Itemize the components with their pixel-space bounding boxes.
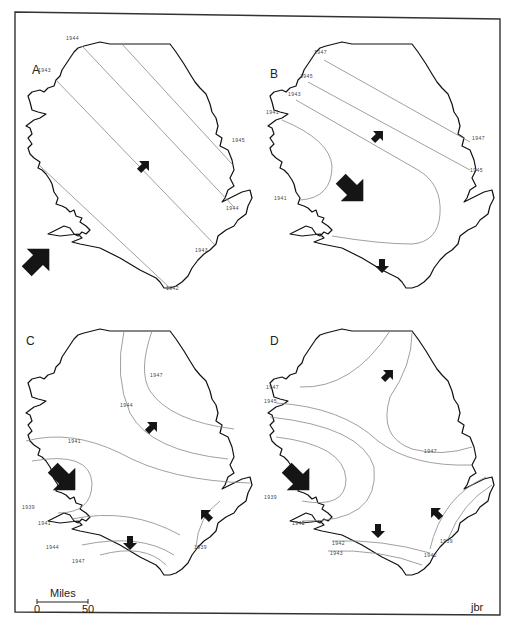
year-label: 1943 bbox=[330, 550, 343, 556]
year-label: 1947 bbox=[150, 372, 163, 378]
year-label: 1942 bbox=[292, 520, 305, 526]
scale-bar-start-label: 0 bbox=[34, 603, 40, 615]
year-label: 1944 bbox=[120, 402, 133, 408]
year-label: 1943 bbox=[288, 91, 301, 97]
year-label: 1947 bbox=[472, 135, 485, 141]
scale-bar-end-label: 50 bbox=[82, 603, 94, 615]
year-label: 1945 bbox=[232, 137, 245, 143]
year-label: 1939 bbox=[22, 504, 35, 510]
scale-bar: Miles 0 50 bbox=[34, 587, 94, 615]
year-label: 1941 bbox=[274, 195, 287, 201]
year-label: 1943 bbox=[195, 247, 208, 253]
year-label: 1947 bbox=[266, 384, 279, 390]
year-label: 1945 bbox=[300, 73, 313, 79]
year-label: 1947 bbox=[424, 448, 437, 454]
panel-label: B bbox=[270, 67, 278, 81]
year-label: 1947 bbox=[72, 558, 85, 564]
scale-bar-title: Miles bbox=[50, 587, 76, 599]
country-outline bbox=[268, 329, 494, 575]
year-label: 1939 bbox=[264, 494, 277, 500]
map-panel-a: A 1944 1943 1945 1944 1943 1942 bbox=[15, 35, 252, 291]
figure-canvas: A 1944 1943 1945 1944 1943 1942 B 1947 1… bbox=[0, 0, 507, 630]
year-label: 1944 bbox=[66, 35, 79, 41]
country-outline bbox=[26, 42, 252, 288]
year-label: 1942 bbox=[332, 540, 345, 546]
year-label: 1941 bbox=[68, 438, 81, 444]
map-panel-c: C 1947 1944 1941 1939 1941 1944 1947 193… bbox=[22, 329, 252, 575]
year-label: 1944 bbox=[46, 544, 59, 550]
year-label: 1942 bbox=[424, 552, 437, 558]
year-label: 1945 bbox=[470, 167, 483, 173]
year-label: 1945 bbox=[264, 398, 277, 404]
map-panel-b: B 1947 1945 1943 1941 1941 1947 1945 bbox=[266, 42, 494, 288]
country-outline bbox=[26, 329, 252, 575]
panel-label: D bbox=[270, 334, 279, 348]
map-panel-d: D 1947 1945 1947 1939 1942 1942 1943 193… bbox=[264, 329, 494, 575]
year-label: 1943 bbox=[38, 67, 51, 73]
arrow-large-northeast bbox=[15, 237, 60, 282]
year-label: 1941 bbox=[38, 520, 51, 526]
year-label: 1939 bbox=[440, 538, 453, 544]
year-label: 1947 bbox=[314, 49, 327, 55]
year-label: 1941 bbox=[266, 109, 279, 115]
year-label: 1942 bbox=[166, 285, 179, 291]
year-label: 1939 bbox=[194, 544, 207, 550]
year-label: 1944 bbox=[226, 205, 239, 211]
credit-label: jbr bbox=[470, 601, 484, 613]
panel-label: C bbox=[26, 334, 35, 348]
